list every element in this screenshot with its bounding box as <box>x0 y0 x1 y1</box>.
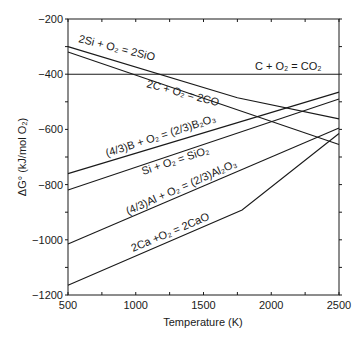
ellingham-diagram: 5001000150020002500−1200−1000−800−600−40… <box>0 0 364 344</box>
y-tick-label: −600 <box>38 123 63 135</box>
x-tick-label: 1000 <box>124 299 148 311</box>
y-axis-label: ΔG° (kJ/mol O₂) <box>16 118 28 196</box>
y-tick-label: −800 <box>38 179 63 191</box>
x-tick-label: 2000 <box>259 299 283 311</box>
label-co2: C + O₂ = CO₂ <box>255 60 322 72</box>
label-2sio: 2Si + O₂ = 2SiO <box>78 32 157 63</box>
y-tick-label: −400 <box>38 68 63 80</box>
series-lines <box>68 47 339 286</box>
y-tick-label: −1000 <box>32 234 63 246</box>
y-tick-label: −1200 <box>32 289 63 301</box>
x-tick-label: 2500 <box>327 299 351 311</box>
x-axis-label: Temperature (K) <box>163 316 242 328</box>
series-line <box>68 47 339 119</box>
label-2co: 2C + O₂ = 2CO <box>145 77 221 108</box>
x-tick-label: 1500 <box>191 299 215 311</box>
y-tick-label: −200 <box>38 13 63 25</box>
label-cao: 2Ca +O₂ = 2CaO <box>129 210 211 254</box>
